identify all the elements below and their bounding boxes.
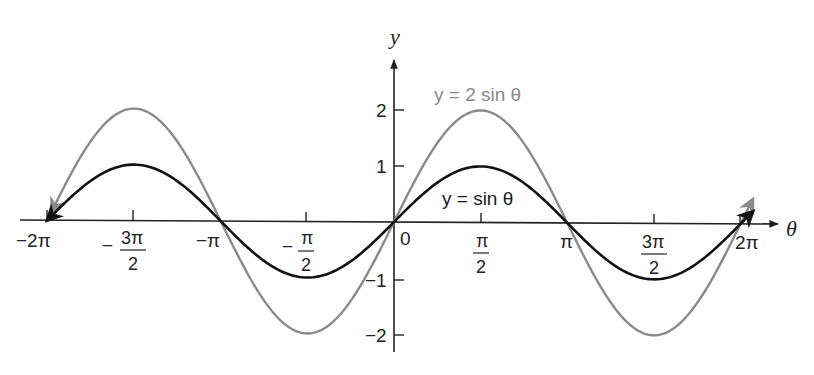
tick-2pi: 2π <box>735 232 759 253</box>
x-axis <box>20 220 778 224</box>
tick-pi: π <box>560 231 573 252</box>
tick-yn1: −1 <box>365 270 387 291</box>
label-2-sin-theta: y = 2 sin θ <box>434 84 521 105</box>
tick-neg-pi2-minus: − <box>282 236 293 257</box>
label-sin-theta: y = sin θ <box>442 188 513 209</box>
tick-pi2-num: π <box>476 231 488 251</box>
tick-yn2: −2 <box>365 325 387 346</box>
tick-3pi2-num: 3π <box>642 232 664 252</box>
sine-chart: y θ −2π − 3π 2 −π − π 2 0 π 2 π 3π 2 2π … <box>0 0 814 375</box>
tick-origin: 0 <box>400 228 411 249</box>
tick-y2: 2 <box>376 100 387 121</box>
y-tick-labels: 2 1 −1 −2 <box>365 100 387 346</box>
x-axis-label: θ <box>786 216 797 241</box>
tick-neg-3pi2-num: 3π <box>121 228 143 248</box>
tick-neg-pi2-num: π <box>301 228 313 248</box>
tick-y1: 1 <box>376 156 387 177</box>
tick-neg-3pi2-den: 2 <box>128 254 138 274</box>
y-axis-label: y <box>388 24 400 49</box>
tick-neg-pi2-den: 2 <box>301 255 311 275</box>
tick-neg-pi: −π <box>196 230 220 251</box>
tick-neg-3pi2-minus: − <box>102 235 113 256</box>
axes <box>20 60 778 352</box>
tick-pi2-den: 2 <box>476 257 486 277</box>
tick-3pi2-den: 2 <box>649 258 659 278</box>
tick-neg-2pi: −2π <box>16 230 51 251</box>
